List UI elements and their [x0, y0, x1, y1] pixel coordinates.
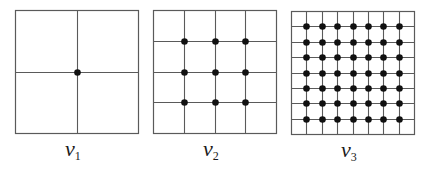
grid-point-dot — [365, 100, 372, 107]
grid-point-dot — [380, 54, 387, 61]
grid-point-dot — [350, 54, 357, 61]
label-v2-symbol: ν — [203, 136, 213, 161]
grid-point-dot — [380, 100, 387, 107]
grid-point-dot — [365, 70, 372, 77]
grid-point-dot — [334, 39, 341, 46]
panel-v3 — [292, 12, 415, 135]
grid-point-dot — [334, 100, 341, 107]
grid-point-dot — [319, 39, 326, 46]
label-v1: ν1 — [65, 138, 81, 162]
grid-point-dot — [303, 54, 310, 61]
grid-point-dot — [396, 85, 403, 92]
grid-point-dot — [350, 116, 357, 123]
panel-v1 — [16, 11, 139, 134]
grid-point-dot — [212, 99, 219, 106]
label-v3-subscript: 3 — [351, 150, 357, 164]
grid-point-dot — [303, 116, 310, 123]
grid-point-dot — [365, 39, 372, 46]
grid-point-dot — [365, 54, 372, 61]
grid-point-dot — [350, 39, 357, 46]
grid-point-dot — [242, 69, 249, 76]
label-v1-symbol: ν — [65, 136, 75, 161]
grid-point-dot — [181, 69, 188, 76]
grid-point-dot — [212, 38, 219, 45]
label-v1-subscript: 1 — [75, 149, 81, 163]
grid-point-dot — [303, 39, 310, 46]
label-v2: ν2 — [203, 138, 219, 162]
grid-point-dot — [380, 23, 387, 30]
grid-point-dot — [303, 23, 310, 30]
grid-point-dot — [380, 70, 387, 77]
grid-point-dot — [396, 100, 403, 107]
grid-point-dot — [303, 70, 310, 77]
grid-point-dot — [365, 85, 372, 92]
grid-point-dot — [334, 116, 341, 123]
grid-point-dot — [396, 70, 403, 77]
grid-point-dot — [380, 85, 387, 92]
label-v3-symbol: ν — [341, 137, 351, 162]
panel-v2 — [154, 11, 277, 134]
grid-point-dot — [212, 69, 219, 76]
grid-point-dot — [334, 54, 341, 61]
grid-point-dot — [365, 116, 372, 123]
grid-point-dot — [350, 85, 357, 92]
grid-point-dot — [242, 99, 249, 106]
grid-point-dot — [319, 85, 326, 92]
grid-point-dot — [319, 23, 326, 30]
grid-point-dot — [303, 100, 310, 107]
label-v3: ν3 — [341, 139, 357, 163]
grid-point-dot — [350, 23, 357, 30]
grid-point-dot — [396, 116, 403, 123]
grid-point-dot — [181, 38, 188, 45]
grid-point-dot — [74, 69, 81, 76]
grid-point-dot — [334, 85, 341, 92]
grid-point-dot — [396, 23, 403, 30]
grid-point-dot — [319, 70, 326, 77]
grid-point-dot — [319, 116, 326, 123]
grid-point-dot — [242, 38, 249, 45]
grid-point-dot — [319, 100, 326, 107]
grid-point-dot — [365, 23, 372, 30]
grid-point-dot — [396, 54, 403, 61]
grid-point-dot — [334, 70, 341, 77]
grid-point-dot — [396, 39, 403, 46]
grid-point-dot — [181, 99, 188, 106]
grid-point-dot — [334, 23, 341, 30]
grid-point-dot — [380, 39, 387, 46]
grid-point-dot — [380, 116, 387, 123]
grid-point-dot — [350, 100, 357, 107]
grid-point-dot — [350, 70, 357, 77]
grid-point-dot — [303, 85, 310, 92]
grid-point-dot — [319, 54, 326, 61]
label-v2-subscript: 2 — [213, 149, 219, 163]
